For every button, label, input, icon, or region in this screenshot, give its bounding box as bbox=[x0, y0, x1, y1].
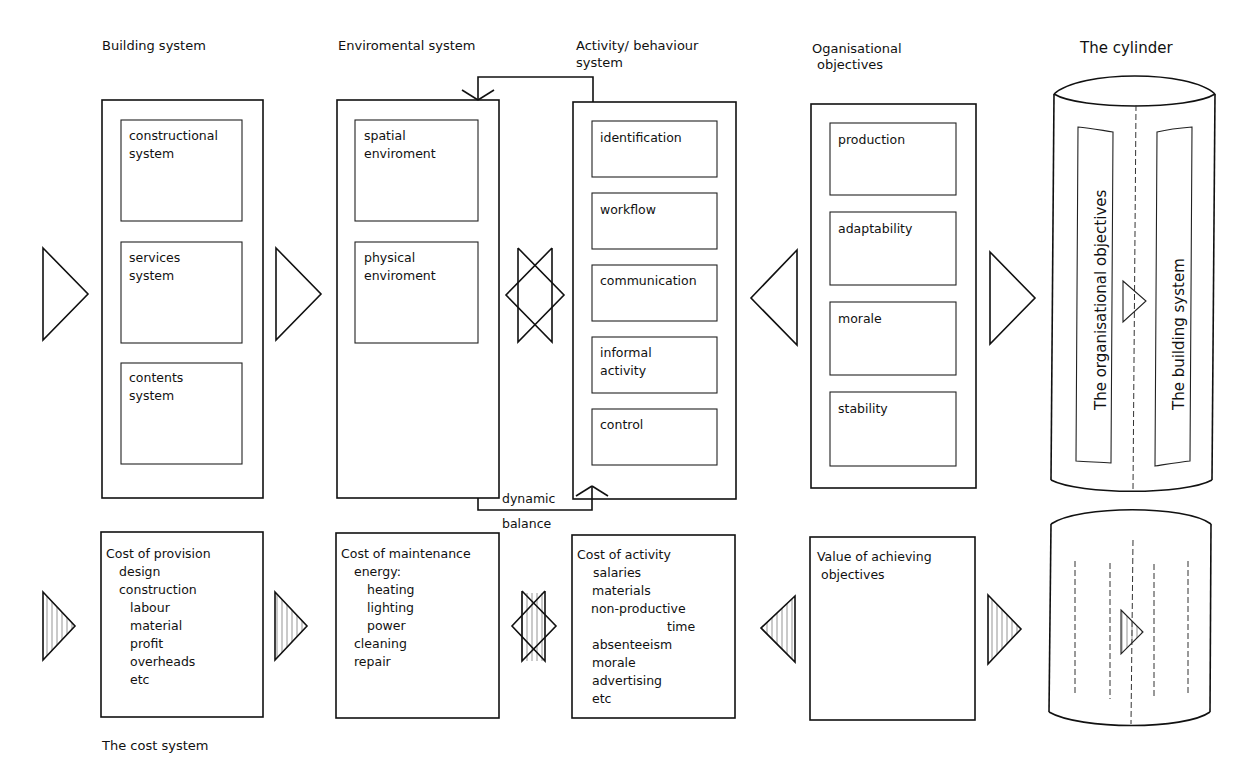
svg-text:workflow: workflow bbox=[600, 202, 656, 217]
svg-text:Cost of maintenance: Cost of maintenance bbox=[341, 546, 471, 561]
svg-text:stability: stability bbox=[838, 401, 888, 416]
dynamic-balance-label-line1: dynamic bbox=[502, 491, 556, 506]
building-subsystem: services system bbox=[121, 242, 242, 343]
svg-text:profit: profit bbox=[130, 636, 163, 651]
arrow-right-hatched-icon bbox=[275, 592, 307, 660]
svg-text:physical: physical bbox=[364, 250, 415, 265]
cost-of-provision-box: Cost of provision design construction la… bbox=[101, 532, 263, 717]
heading-activity-system-line2: system bbox=[576, 55, 623, 70]
svg-text:absenteeism: absenteeism bbox=[592, 637, 672, 652]
heading-cylinder: The cylinder bbox=[1079, 39, 1173, 57]
arrow-right-icon bbox=[990, 252, 1035, 344]
objective-item: morale bbox=[830, 302, 956, 375]
svg-text:Cost of activity: Cost of activity bbox=[577, 547, 671, 562]
dynamic-balance-label-line2: balance bbox=[502, 516, 552, 531]
svg-text:services: services bbox=[129, 250, 180, 265]
objective-item: stability bbox=[830, 392, 956, 466]
activity-system-panel: identification workflow communication in… bbox=[573, 102, 736, 499]
heading-organisational-line2: objectives bbox=[817, 57, 883, 72]
cost-of-maintenance-box: Cost of maintenance energy: heating ligh… bbox=[336, 533, 499, 718]
organisational-objectives-panel: production adaptability morale stability bbox=[811, 104, 976, 488]
systems-diagram: Building system Enviromental system Acti… bbox=[0, 0, 1258, 777]
svg-text:enviroment: enviroment bbox=[364, 268, 436, 283]
svg-text:salaries: salaries bbox=[593, 565, 641, 580]
svg-text:morale: morale bbox=[592, 655, 636, 670]
environmental-system-panel: spatial enviroment physical enviroment bbox=[337, 100, 499, 498]
building-system-panel: constructional system services system co… bbox=[102, 100, 263, 498]
svg-text:enviroment: enviroment bbox=[364, 146, 436, 161]
svg-text:energy:: energy: bbox=[354, 564, 401, 579]
activity-subsystem: workflow bbox=[592, 193, 717, 249]
svg-text:system: system bbox=[129, 388, 174, 403]
svg-text:time: time bbox=[667, 619, 696, 634]
svg-text:informal: informal bbox=[600, 345, 652, 360]
objective-item: adaptability bbox=[830, 212, 956, 285]
svg-text:design: design bbox=[119, 564, 160, 579]
svg-text:identification: identification bbox=[600, 130, 682, 145]
svg-text:communication: communication bbox=[600, 273, 697, 288]
arrow-left-hatched-icon bbox=[761, 596, 795, 662]
cylinder-diagram: The organisational objectives The buildi… bbox=[1051, 76, 1215, 491]
svg-text:etc: etc bbox=[130, 672, 150, 687]
svg-text:control: control bbox=[600, 417, 643, 432]
activity-subsystem: control bbox=[592, 409, 717, 465]
objective-item: production bbox=[830, 123, 956, 195]
svg-text:Value of achieving: Value of achieving bbox=[817, 549, 932, 564]
building-subsystem: constructional system bbox=[121, 120, 242, 221]
heading-environmental-system: Enviromental system bbox=[338, 38, 475, 53]
building-subsystem: contents system bbox=[121, 363, 242, 464]
svg-text:advertising: advertising bbox=[592, 673, 662, 688]
activity-subsystem: informal activity bbox=[592, 337, 717, 393]
feedback-loop-top bbox=[462, 77, 593, 102]
svg-text:system: system bbox=[129, 268, 174, 283]
arrow-left-icon bbox=[751, 250, 797, 345]
value-of-objectives-box: Value of achieving objectives bbox=[810, 537, 975, 720]
svg-text:adaptability: adaptability bbox=[838, 221, 913, 236]
cylinder-cost-diagram bbox=[1049, 510, 1211, 726]
svg-text:heating: heating bbox=[367, 582, 415, 597]
svg-text:power: power bbox=[367, 618, 406, 633]
heading-building-system: Building system bbox=[102, 38, 206, 53]
activity-subsystem: identification bbox=[592, 121, 717, 177]
svg-text:objectives: objectives bbox=[821, 567, 885, 582]
svg-text:activity: activity bbox=[600, 363, 647, 378]
svg-text:production: production bbox=[838, 132, 905, 147]
environmental-subsystem: spatial enviroment bbox=[355, 120, 478, 221]
svg-text:cleaning: cleaning bbox=[354, 636, 407, 651]
cylinder-label-organisational-objectives: The organisational objectives bbox=[1092, 190, 1110, 411]
heading-activity-system-line1: Activity/ behaviour bbox=[576, 38, 699, 53]
heading-organisational-line1: Oganisational bbox=[812, 41, 902, 56]
arrow-right-hatched-icon bbox=[43, 592, 75, 660]
cost-system-caption: The cost system bbox=[101, 738, 208, 753]
svg-text:lighting: lighting bbox=[367, 600, 414, 615]
svg-text:material: material bbox=[130, 618, 182, 633]
bidirectional-arrow-icon bbox=[506, 248, 564, 342]
svg-text:Cost of provision: Cost of provision bbox=[106, 546, 211, 561]
svg-text:labour: labour bbox=[130, 600, 171, 615]
svg-text:overheads: overheads bbox=[130, 654, 195, 669]
activity-subsystem: communication bbox=[592, 265, 717, 321]
cylinder-label-building-system: The building system bbox=[1170, 258, 1188, 411]
arrow-right-icon bbox=[276, 248, 321, 340]
svg-text:constructional: constructional bbox=[129, 128, 218, 143]
svg-text:system: system bbox=[129, 146, 174, 161]
svg-text:etc: etc bbox=[592, 691, 612, 706]
svg-text:contents: contents bbox=[129, 370, 183, 385]
bidirectional-hatched-arrow-icon bbox=[512, 591, 556, 661]
svg-text:construction: construction bbox=[119, 582, 197, 597]
svg-text:materials: materials bbox=[592, 583, 651, 598]
svg-text:repair: repair bbox=[354, 654, 392, 669]
svg-text:spatial: spatial bbox=[364, 128, 406, 143]
arrow-right-hatched-icon bbox=[988, 595, 1021, 664]
cost-of-activity-box: Cost of activity salaries materials non-… bbox=[572, 535, 735, 718]
arrow-right-icon bbox=[43, 248, 88, 340]
environmental-subsystem: physical enviroment bbox=[355, 242, 478, 343]
svg-text:non-productive: non-productive bbox=[591, 601, 686, 616]
svg-text:morale: morale bbox=[838, 311, 882, 326]
